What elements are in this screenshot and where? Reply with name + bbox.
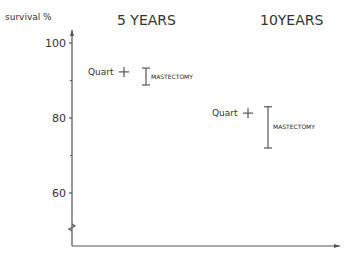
group-title: 10YEARS — [260, 12, 324, 28]
survival-chart: survival %10080605 YEARSQuartMASTECTOMY1… — [0, 0, 350, 262]
quart-label: Quart — [88, 67, 114, 77]
quart-label: Quart — [212, 108, 238, 118]
y-tick-label: 100 — [45, 37, 66, 50]
x-axis-arrow — [334, 244, 340, 248]
y-tick-label: 60 — [52, 187, 66, 200]
y-tick-label: 80 — [52, 112, 66, 125]
mastectomy-label: MASTECTOMY — [273, 123, 315, 130]
y-axis-arrow — [70, 30, 74, 36]
mastectomy-label: MASTECTOMY — [151, 73, 193, 80]
group-title: 5 YEARS — [117, 12, 176, 28]
y-axis-label: survival % — [5, 12, 52, 22]
